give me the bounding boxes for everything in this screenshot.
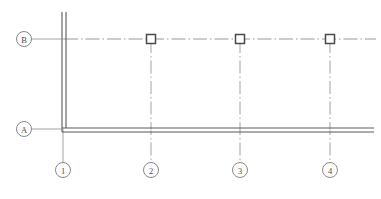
walls <box>62 12 374 132</box>
grid-bubble-2-label: 2 <box>149 166 153 176</box>
structural-plan-drawing: B A 1 2 3 4 <box>0 0 381 199</box>
vertical-grid-lines <box>63 40 330 163</box>
grid-bubble-3-label: 3 <box>238 166 242 176</box>
grid-bubble-A-label: A <box>21 125 28 135</box>
grid-bubbles-horizontal: B A <box>17 32 65 137</box>
grid-bubble-B-label: B <box>21 35 27 45</box>
grid-bubbles-vertical: 1 2 3 4 <box>56 163 338 178</box>
grid-bubble-1-label: 1 <box>61 166 65 176</box>
column-B3-symbol <box>236 35 245 44</box>
column-B2-symbol <box>147 35 156 44</box>
column-B4-symbol <box>326 35 335 44</box>
